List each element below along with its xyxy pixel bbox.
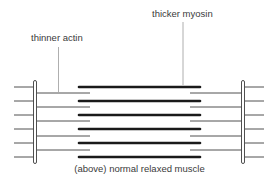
right-outer-filaments	[245, 87, 264, 157]
right-z-line	[242, 81, 245, 164]
sarcomere-diagram: thinner actin thicker myosin	[0, 0, 279, 181]
thinner-actin-label: thinner actin	[31, 32, 83, 43]
left-z-line	[34, 81, 37, 164]
thicker-myosin-label: thicker myosin	[152, 8, 213, 19]
myosin-filaments	[79, 87, 200, 157]
left-outer-filaments	[14, 87, 34, 157]
diagram-caption: (above) normal relaxed muscle	[74, 163, 204, 174]
